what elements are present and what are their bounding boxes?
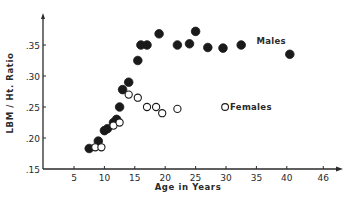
y-axis-title: LBM / Ht. Ratio [5,53,15,134]
y-tick-label: .30 [26,72,41,82]
male-data-point [155,30,164,39]
y-tick-label: .20 [26,134,41,144]
male-data-point [124,78,133,87]
y-axis-arrow-icon [41,13,45,19]
legend-open-circle-icon [222,104,229,111]
female-data-point [174,105,181,112]
x-tick-label: 30 [220,173,232,183]
male-data-point [204,43,213,52]
female-data-point [125,91,132,98]
scatter-chart: 51015202530354046 .15.20.25.30.35 Age in… [0,0,359,206]
x-tick-label: 10 [99,173,111,183]
female-data-point [98,144,105,151]
female-data-point [134,94,141,101]
x-tick-label: 15 [129,173,140,183]
x-tick-label: 5 [71,173,77,183]
y-tick-label: .15 [26,165,40,175]
male-data-point [173,41,182,50]
male-data-point [191,27,200,36]
female-data-point [153,103,160,110]
male-data-point [134,56,143,65]
female-data-point [143,103,150,110]
x-tick-label: 35 [251,173,262,183]
male-data-point [143,41,152,50]
x-tick-label: 40 [281,173,293,183]
female-data-point [116,119,123,126]
females-label: Females [230,102,272,112]
y-tick-label: .35 [26,41,40,51]
annotations: MalesFemales [222,36,286,112]
y-tick-label: .25 [26,103,40,113]
x-tick-label: 46 [318,173,330,183]
male-data-point [219,44,228,53]
female-data-point [159,110,166,117]
males-label: Males [256,36,285,46]
male-data-point [185,40,194,49]
male-data-point [115,103,124,112]
x-axis-arrow-icon [336,167,343,172]
male-data-point [286,50,295,59]
male-data-point [237,41,246,50]
x-axis-title: Age in Years [155,182,222,192]
